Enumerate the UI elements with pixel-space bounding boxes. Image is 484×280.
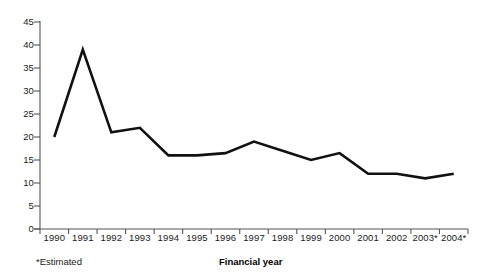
x-axis-tick-label: 1995 [186, 232, 208, 244]
x-axis-tick-label: 1993 [129, 232, 151, 244]
data-series-line [54, 50, 453, 179]
y-axis-tick-label: 0 [8, 224, 34, 234]
x-axis-title: Financial year [219, 256, 282, 268]
x-axis-tick-label: 2003* [413, 232, 438, 244]
x-axis-tick-labels: 1990199119921993199419951996199719981999… [40, 232, 468, 248]
x-axis-tick-label: 1992 [101, 232, 123, 244]
x-axis-tick-label: 1991 [72, 232, 94, 244]
x-axis-tick-label: 2004* [441, 232, 466, 244]
x-axis-tick-label: 1994 [158, 232, 180, 244]
x-axis-tick-label: 2001 [357, 232, 379, 244]
y-axis-tick-labels: 051015202530354045 [8, 0, 34, 280]
y-axis-tick-label: 20 [8, 132, 34, 142]
x-axis-tick-label: 1996 [215, 232, 237, 244]
chart-axes [34, 21, 468, 229]
x-axis-tick-label: 2002 [386, 232, 408, 244]
x-axis-tick-label: 1998 [272, 232, 294, 244]
x-axis-tick-label: 1999 [300, 232, 322, 244]
footnote-estimated: *Estimated [36, 256, 82, 268]
x-axis-tick-label: 1997 [243, 232, 265, 244]
line-chart-figure: 051015202530354045 199019911992199319941… [0, 0, 484, 280]
y-axis-tick-label: 15 [8, 155, 34, 165]
x-axis-tick-label: 2000 [329, 232, 351, 244]
y-axis-tick-label: 45 [8, 17, 34, 27]
y-axis-tick-label: 10 [8, 178, 34, 188]
y-axis-tick-label: 5 [8, 201, 34, 211]
y-axis-tick-label: 40 [8, 40, 34, 50]
chart-tick-marks [34, 22, 468, 234]
y-axis-tick-label: 35 [8, 63, 34, 73]
x-axis-tick-label: 1990 [43, 232, 65, 244]
y-axis-tick-label: 30 [8, 86, 34, 96]
y-axis-tick-label: 25 [8, 109, 34, 119]
